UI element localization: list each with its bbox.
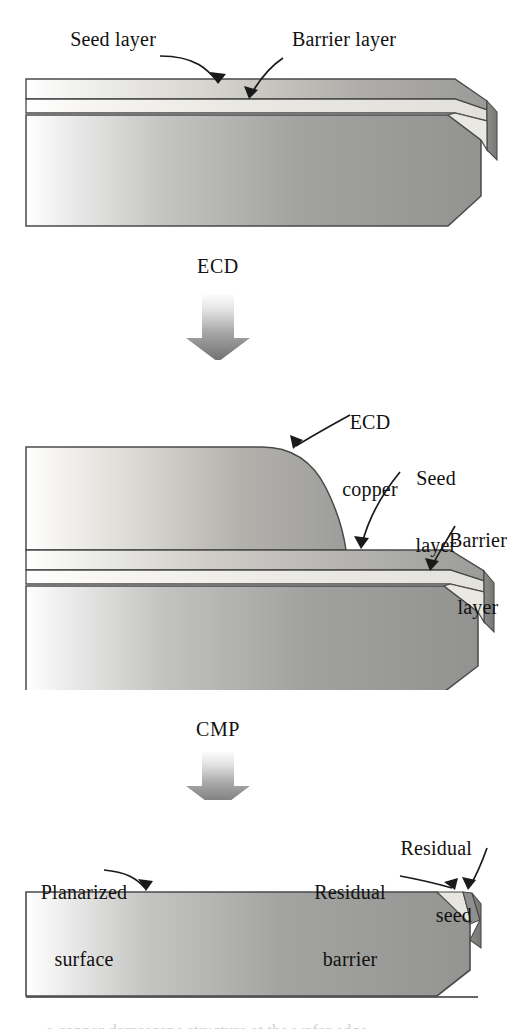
step-ecd-graphic [0,250,528,360]
cmp-down-arrow-icon [186,752,250,800]
barrier-layer-label-2-line2: layer [428,596,528,618]
panel-after-cmp: Planarized surface Residual seed Residua… [0,800,528,1029]
step-cmp-graphic [0,690,528,800]
residual-barrier-label: Residual barrier [292,836,408,1015]
barrier-layer-label: Barrier layer [292,28,462,50]
step-cmp: CMP [0,690,528,800]
substrate-body-2 [26,586,478,690]
step-ecd: ECD [0,250,528,360]
panel-after-ecd: ECD copper Seed layer Barrier layer [0,360,528,690]
ecd-down-arrow-icon [186,295,250,360]
figure-container: Seed layer Barrier layer ECD [0,0,528,1029]
ecd-copper-overburden [26,447,346,550]
caption-sliver: a copper damascene structure at the wafe… [46,1021,466,1029]
planarized-surface-label: Planarized surface [22,836,146,1015]
seed-layer-label: Seed layer [36,28,156,50]
barrier-layer-label-2: Barrier layer [428,484,528,663]
substrate-body [26,115,481,226]
panel-as-deposited: Seed layer Barrier layer [0,0,528,250]
residual-barrier-label-line1: Residual [292,881,408,903]
edge-bevel-sliver [487,101,497,160]
barrier-layer-label-2-line1: Barrier [428,529,528,551]
planarized-surface-label-line1: Planarized [22,881,146,903]
seed-layer-leader-line [160,56,218,82]
page-rule [26,996,478,998]
planarized-surface-label-line2: surface [22,948,146,970]
residual-barrier-label-line2: barrier [292,948,408,970]
